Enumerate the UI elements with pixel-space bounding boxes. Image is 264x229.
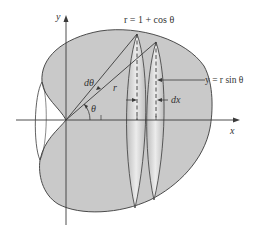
diagram-graphics [0,0,264,229]
y-axis-arrow-icon [64,15,69,22]
cardioid-region [40,30,213,212]
cardioid-volume-diagram: y x r = 1 + cos θ y = r sin θ dθ r θ dx [0,0,264,229]
slice-height-label: y = r sin θ [205,76,243,86]
curve-equation-label: r = 1 + cos θ [124,15,174,25]
theta-label: θ [91,104,96,114]
x-axis-label: x [230,126,234,136]
left-lobe-outline [35,82,42,160]
dx-label: dx [171,95,180,105]
d-theta-label: dθ [84,78,94,88]
radius-label: r [113,83,117,93]
x-axis-arrow-icon [233,118,240,123]
y-axis-label: y [56,12,60,22]
